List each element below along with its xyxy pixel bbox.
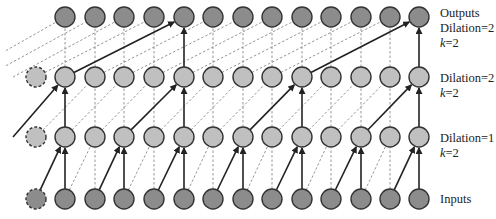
outputs-node [144,7,164,27]
inputs-node [114,189,134,209]
k-value: =2 [446,86,459,100]
outputs-label-line3: k=2 [440,36,494,51]
solid-connections [13,22,419,190]
hidden2-padding-node [26,67,46,87]
dashed-diagonal-edge [365,147,385,190]
hidden2-node [380,67,400,87]
hidden2-label-line2: k=2 [440,86,494,101]
hidden2-node [55,67,75,87]
solid-diagonal-edge [311,22,409,72]
dashed-diagonal-edge [69,147,90,190]
hidden1-node [292,127,312,147]
hidden1-label: Dilation=1 k=2 [440,131,494,161]
inputs-node [351,189,371,209]
hidden1-node [380,127,400,147]
outputs-label-line2: Dilation=2 [440,21,494,36]
solid-diagonal-edge [394,147,414,190]
inputs-node [321,189,341,209]
hidden1-node [55,127,75,147]
hidden1-node [262,127,282,147]
solid-diagonal-edge [131,85,176,130]
outputs-label: Outputs Dilation=2 k=2 [440,6,494,51]
inputs-node [85,189,105,209]
hidden2-node [292,67,312,87]
hidden2-node [85,67,105,87]
dashed-diagonal-edge [191,85,235,130]
solid-diagonal-edge [40,147,60,190]
hidden2-node [114,67,134,87]
inputs-node [203,189,223,209]
hidden1-node [85,127,105,147]
inputs-node [144,189,164,209]
inputs-label: Inputs [440,192,471,207]
dilated-convolution-diagram [0,0,496,219]
solid-diagonal-edge [217,147,238,190]
outputs-node [380,7,400,27]
hidden1-node [114,127,134,147]
hidden1-node [233,127,253,147]
inputs-padding-node [26,189,46,209]
inputs-label-line1: Inputs [440,192,471,207]
hidden2-node [321,67,341,87]
k-value: =2 [446,146,459,160]
dashed-diagonal-edge [279,85,323,130]
inputs-node [55,189,75,209]
hidden2-node [174,67,194,87]
outputs-node [85,7,105,27]
dashed-diagonal-edge [6,22,55,50]
outputs-node [114,7,134,27]
outputs-node [292,7,312,27]
dashed-diagonal-edge [102,85,146,130]
outputs-node [351,7,371,27]
hidden2-node [203,67,223,87]
dashed-diagonal-edge [72,85,116,130]
hidden1-padding-node [26,127,46,147]
hidden2-label-line1: Dilation=2 [440,71,494,86]
inputs-node [262,189,282,209]
inputs-node [174,189,194,209]
inputs-node [409,189,429,209]
dashed-diagonal-edge [247,147,267,190]
outputs-node [203,7,223,27]
hidden1-label-line1: Dilation=1 [440,131,494,146]
hidden2-node [233,67,253,87]
hidden1-node [409,127,429,147]
hidden2-label: Dilation=2 k=2 [440,71,494,101]
outputs-node [233,7,253,27]
solid-diagonal-edge [368,85,411,130]
solid-diagonal-edge [335,147,356,190]
outputs-node [409,7,429,27]
hidden1-node [321,127,341,147]
inputs-node [233,189,253,209]
hidden2-node [351,67,371,87]
solid-diagonal-edge [276,147,297,190]
inputs-node [380,189,400,209]
hidden2-node [409,67,429,87]
hidden1-node [144,127,164,147]
dashed-connections [6,22,390,190]
hidden2-node [262,67,282,87]
solid-diagonal-edge [99,147,119,190]
dashed-diagonal-edge [309,85,353,130]
outputs-node [174,7,194,27]
dashed-diagonal-edge [128,147,149,190]
hidden1-label-line2: k=2 [440,146,494,161]
hidden1-node [174,127,194,147]
dashed-diagonal-edge [306,147,326,190]
dashed-diagonal-edge [188,147,208,190]
hidden1-node [203,127,223,147]
outputs-node [55,7,75,27]
inputs-node [292,189,312,209]
dashed-diagonal-edge [161,85,205,130]
outputs-label-line1: Outputs [440,6,494,21]
outputs-node [321,7,341,27]
k-value: =2 [446,36,459,50]
hidden2-node [144,67,164,87]
solid-diagonal-edge [158,147,179,190]
solid-diagonal-edge [250,85,294,130]
outputs-node [262,7,282,27]
hidden1-node [351,127,371,147]
dashed-diagonal-edge [338,85,382,130]
dashed-diagonal-edge [133,22,233,73]
